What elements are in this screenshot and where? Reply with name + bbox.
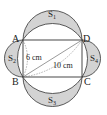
measure-diagonal-bd: 10 cm [53, 61, 74, 70]
label-a: A [12, 33, 20, 44]
label-b: B [12, 76, 19, 87]
label-c: C [84, 76, 91, 87]
geometry-diagram: A D B C S1 S2 S3 S4 6 cm 10 cm [0, 0, 107, 115]
label-d: D [83, 33, 90, 44]
measure-side-ab: 6 cm [26, 53, 43, 62]
